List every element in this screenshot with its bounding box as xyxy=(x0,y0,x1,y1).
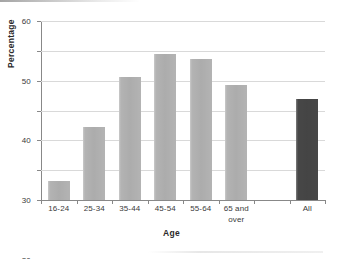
y-tick-label: 40 xyxy=(22,136,31,145)
bar-fill xyxy=(48,181,70,200)
bottom-edge-artifact xyxy=(148,251,323,253)
bar-fill xyxy=(225,85,247,200)
x-tick-mark xyxy=(254,200,255,204)
y-tick-mark: 50 xyxy=(37,51,41,52)
bar-fill xyxy=(296,99,318,200)
x-tick-label: All xyxy=(290,204,326,215)
x-axis-title: Age xyxy=(0,228,343,238)
x-tick-label: 55-64 xyxy=(183,204,219,215)
x-tick-label: 16-24 xyxy=(41,204,77,215)
gridline xyxy=(41,81,325,82)
bar-65-and-over xyxy=(225,85,247,200)
gridline xyxy=(41,111,325,112)
top-edge-artifact xyxy=(0,0,140,2)
bar-35-44 xyxy=(119,77,141,200)
x-tick-label: 25-34 xyxy=(77,204,113,215)
x-tick-label: 45-54 xyxy=(148,204,184,215)
y-tick-mark: 20 xyxy=(37,140,41,141)
y-tick-mark: 60 xyxy=(37,21,41,22)
y-tick-label: 30 xyxy=(22,196,31,205)
bar-chart-figure: 0102030405060 Percentage Age 16-2425-343… xyxy=(0,0,343,259)
y-tick-label: 50 xyxy=(22,76,31,85)
x-tick-mark xyxy=(325,200,326,204)
bar-45-54 xyxy=(154,54,176,200)
bar-all xyxy=(296,99,318,200)
bar-fill xyxy=(190,59,212,200)
gridline xyxy=(41,21,325,22)
plot-area: 0102030405060 xyxy=(41,21,325,200)
y-tick-mark: 10 xyxy=(37,170,41,171)
bar-16-24 xyxy=(48,181,70,200)
y-tick-mark: 30 xyxy=(37,111,41,112)
bar-fill xyxy=(119,77,141,200)
gridline xyxy=(41,51,325,52)
x-tick-label: 35-44 xyxy=(112,204,148,215)
bar-25-34 xyxy=(83,127,105,200)
x-tick-label: 65 and over xyxy=(219,204,255,225)
bar-55-64 xyxy=(190,59,212,200)
bar-fill xyxy=(154,54,176,200)
y-tick-label: 20 xyxy=(22,255,31,259)
y-axis-title: Percentage xyxy=(6,19,16,68)
bar-fill xyxy=(83,127,105,200)
y-tick-mark: 40 xyxy=(37,81,41,82)
y-tick-label: 60 xyxy=(22,17,31,26)
